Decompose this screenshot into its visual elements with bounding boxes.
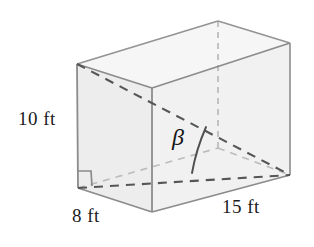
width-dimension-label: 15 ft <box>222 196 260 218</box>
beta-angle-label: β <box>172 124 184 151</box>
depth-dimension-label: 8 ft <box>72 205 100 227</box>
edge-vertical-left <box>77 64 78 188</box>
height-dimension-label: 10 ft <box>18 108 56 130</box>
geometry-figure: 10 ft 8 ft 15 ft β <box>0 0 314 247</box>
box-left-face <box>77 64 152 212</box>
